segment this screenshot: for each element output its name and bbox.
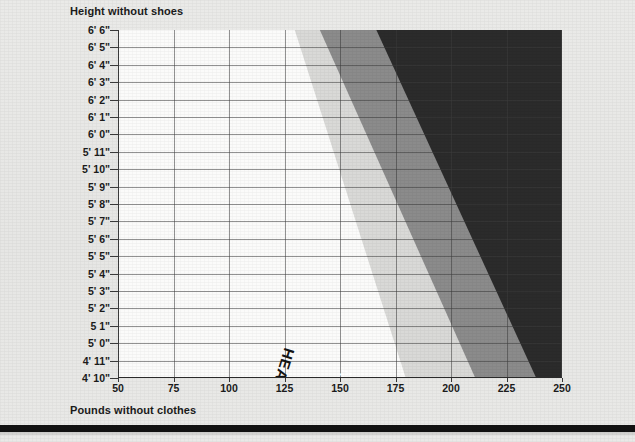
chart-page: Height without shoes HEALTHY WEIGHT MODE… xyxy=(0,0,635,442)
y-axis-tick-mark xyxy=(110,361,119,362)
band-label-healthy-weight: HEALTHY WEIGHT xyxy=(239,346,298,378)
x-axis-tick-label: 225 xyxy=(498,382,516,394)
bottom-rule-shadow xyxy=(0,432,635,435)
y-axis-tick-mark xyxy=(110,239,119,240)
y-axis-tick-label: 5' 0" xyxy=(56,337,110,349)
plot-area: HEALTHY WEIGHT MODERATE OVERWEIGHT SEVER… xyxy=(118,30,562,378)
y-axis-tick-label: 6' 6" xyxy=(56,24,110,36)
x-axis-tick-label: 100 xyxy=(220,382,238,394)
y-axis-tick-mark xyxy=(110,117,119,118)
y-axis-tick-mark xyxy=(110,82,119,83)
x-axis-tick-labels: 5075100125150175200225250 xyxy=(118,382,562,398)
x-axis-tick-mark xyxy=(507,378,508,382)
y-axis-tick-label: 5' 6" xyxy=(56,233,110,245)
y-axis-tick-mark xyxy=(110,152,119,153)
x-axis-tick-mark xyxy=(396,378,397,382)
x-axis-tick-mark xyxy=(285,378,286,382)
x-axis-tick-label: 75 xyxy=(168,382,180,394)
gridline-vertical xyxy=(451,30,452,378)
y-axis-tick-label: 5' 10" xyxy=(56,163,110,175)
y-axis-tick-label: 5' 4" xyxy=(56,268,110,280)
gridline-vertical xyxy=(507,30,508,378)
x-axis-tick-label: 150 xyxy=(331,382,349,394)
x-axis-title: Pounds without clothes xyxy=(70,404,196,416)
x-axis-tick-mark xyxy=(451,378,452,382)
y-axis-tick-label: 5 1" xyxy=(56,320,110,332)
y-axis-tick-label: 6' 3" xyxy=(56,76,110,88)
x-axis-tick-mark xyxy=(340,378,341,382)
y-axis-tick-label: 5' 5" xyxy=(56,250,110,262)
y-axis-tick-mark xyxy=(110,291,119,292)
x-axis-tick-mark xyxy=(229,378,230,382)
y-axis-tick-label: 6' 1" xyxy=(56,111,110,123)
y-axis-tick-mark xyxy=(110,256,119,257)
y-axis-tick-mark xyxy=(110,326,119,327)
x-axis-tick-label: 200 xyxy=(442,382,460,394)
x-axis-tick-mark xyxy=(118,378,119,382)
y-axis-tick-mark xyxy=(110,65,119,66)
bottom-rule xyxy=(0,425,635,432)
y-axis-tick-mark xyxy=(110,274,119,275)
y-axis-tick-label: 5' 11" xyxy=(56,146,110,158)
gridline-vertical xyxy=(174,30,175,378)
x-axis-tick-mark xyxy=(174,378,175,382)
y-axis-tick-label: 6' 4" xyxy=(56,59,110,71)
y-axis-title: Height without shoes xyxy=(70,5,183,17)
y-axis-tick-mark xyxy=(110,308,119,309)
y-axis-tick-mark xyxy=(110,100,119,101)
y-axis-tick-label: 5' 3" xyxy=(56,285,110,297)
y-axis-tick-mark xyxy=(110,47,119,48)
y-axis-tick-mark xyxy=(110,187,119,188)
y-axis-tick-label: 4' 10" xyxy=(56,372,110,384)
y-axis-tick-labels: 6' 6"6' 5"6' 4"6' 3"6' 2"6' 1"6' 0"5' 11… xyxy=(54,30,110,378)
gridline-vertical xyxy=(340,30,341,378)
plot-right-edge xyxy=(561,30,562,378)
gridline-vertical xyxy=(396,30,397,378)
y-axis-tick-label: 6' 2" xyxy=(56,94,110,106)
y-axis-tick-mark xyxy=(110,30,119,31)
y-axis-tick-mark xyxy=(110,204,119,205)
y-axis-tick-mark xyxy=(110,134,119,135)
gridline-vertical xyxy=(229,30,230,378)
x-axis-tick-mark xyxy=(562,378,563,382)
x-axis-tick-label: 125 xyxy=(276,382,294,394)
y-axis-tick-label: 5' 2" xyxy=(56,302,110,314)
gridline-vertical xyxy=(285,30,286,378)
y-axis-tick-label: 6' 0" xyxy=(56,128,110,140)
y-axis-tick-label: 6' 5" xyxy=(56,41,110,53)
y-axis-tick-label: 5' 8" xyxy=(56,198,110,210)
x-axis-tick-label: 250 xyxy=(553,382,571,394)
x-axis-tick-label: 50 xyxy=(112,382,124,394)
y-axis-tick-label: 4' 11" xyxy=(56,355,110,367)
y-axis-tick-mark xyxy=(110,221,119,222)
y-axis-tick-label: 5' 9" xyxy=(56,181,110,193)
y-axis-tick-mark xyxy=(110,169,119,170)
y-axis-tick-mark xyxy=(110,343,119,344)
x-axis-tick-label: 175 xyxy=(387,382,405,394)
y-axis-tick-label: 5' 7" xyxy=(56,215,110,227)
